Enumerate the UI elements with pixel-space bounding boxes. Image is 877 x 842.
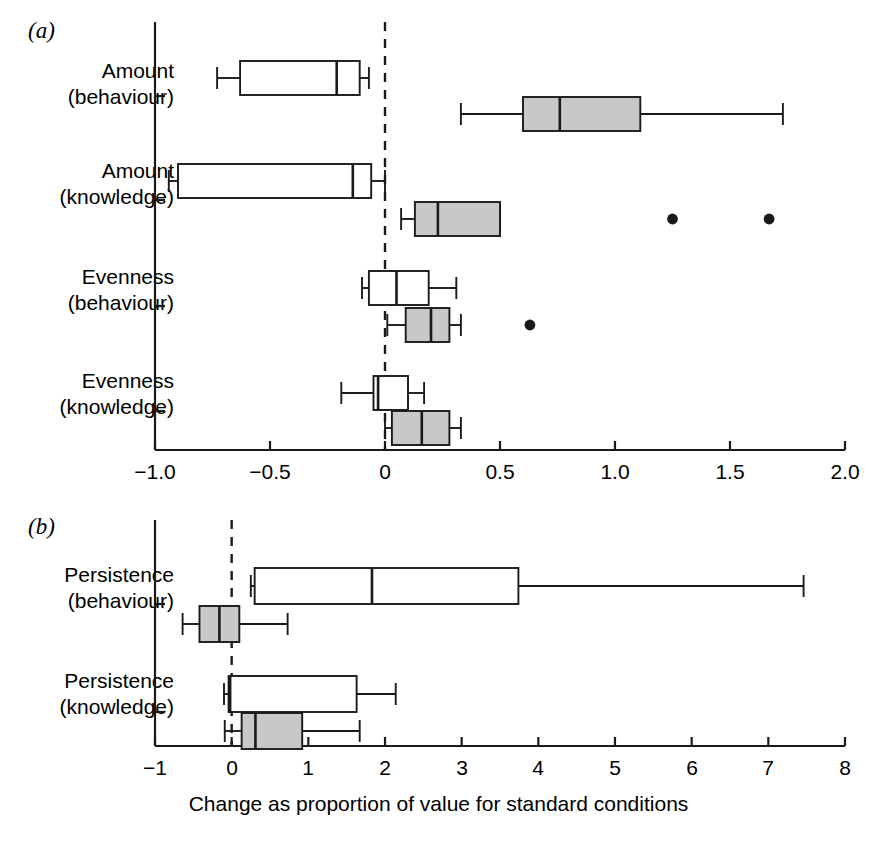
- xtick-a-0: −1.0: [115, 460, 195, 484]
- box-rect: [178, 164, 371, 198]
- boxplot-shaded-5: [387, 308, 535, 342]
- outlier-point-0: [667, 214, 678, 225]
- xtick-b-8: 7: [728, 756, 808, 780]
- xtick-b-5: 4: [498, 756, 578, 780]
- xtick-a-4: 1.0: [575, 460, 655, 484]
- xtick-a-2: 0: [345, 460, 425, 484]
- xtick-b-6: 5: [575, 756, 655, 780]
- xtick-a-6: 2.0: [805, 460, 877, 484]
- box-rect: [229, 676, 357, 712]
- xtick-b-4: 3: [422, 756, 502, 780]
- boxplot-open-0: [217, 61, 369, 95]
- xtick-b-2: 1: [268, 756, 348, 780]
- panel-a: (a) Amount (behaviour) Amount (knowledge…: [0, 0, 877, 500]
- xtick-a-1: −0.5: [230, 460, 310, 484]
- boxplot-shaded-1: [461, 97, 783, 131]
- panel-b-plot: [0, 500, 877, 842]
- boxplot-shaded-3: [225, 713, 360, 749]
- boxplot-shaded-3: [401, 202, 774, 236]
- xtick-a-3: 0.5: [460, 460, 540, 484]
- boxplot-open-0: [251, 568, 804, 604]
- x-axis-title: Change as proportion of value for standa…: [0, 792, 877, 816]
- outlier-point-0: [525, 320, 536, 331]
- box-rect: [369, 271, 429, 305]
- box-rect: [240, 61, 360, 95]
- box-rect: [523, 97, 640, 131]
- xtick-b-9: 8: [805, 756, 877, 780]
- boxplot-figure: (a) Amount (behaviour) Amount (knowledge…: [0, 0, 877, 842]
- boxplot-open-6: [341, 376, 424, 410]
- xtick-b-0: −1: [115, 756, 195, 780]
- boxplot-open-2: [169, 164, 385, 198]
- outlier-point-1: [764, 214, 775, 225]
- panel-a-plot: [0, 0, 877, 500]
- xtick-b-3: 2: [345, 756, 425, 780]
- xtick-b-1: 0: [192, 756, 272, 780]
- boxplot-shaded-7: [385, 411, 461, 445]
- panel-b: (b) Persistence (behaviour) Persistence …: [0, 500, 877, 842]
- boxplot-open-2: [224, 676, 396, 712]
- xtick-b-7: 6: [652, 756, 732, 780]
- box-rect: [242, 713, 303, 749]
- xtick-a-5: 1.5: [690, 460, 770, 484]
- boxplot-shaded-1: [183, 606, 288, 642]
- box-rect: [406, 308, 450, 342]
- boxplot-open-4: [362, 271, 456, 305]
- box-rect: [255, 568, 519, 604]
- box-rect: [415, 202, 500, 236]
